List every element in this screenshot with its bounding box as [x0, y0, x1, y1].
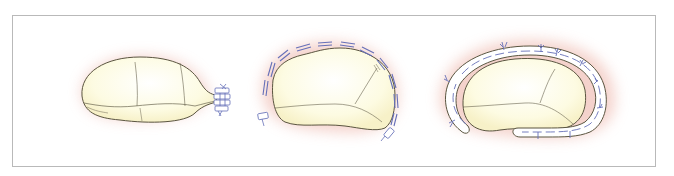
panel-2-sutured-valve [258, 42, 398, 141]
plication-clamp-icon [214, 84, 230, 116]
annuloplasty-illustration [0, 0, 674, 176]
panel-1-plicated-valve [82, 56, 230, 122]
panel-3-annuloplasty-ring [440, 40, 615, 139]
